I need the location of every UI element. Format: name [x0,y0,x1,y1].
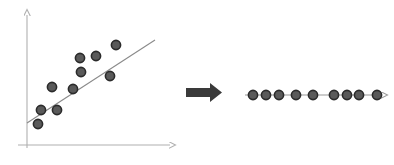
transform-arrow [186,83,222,102]
data-point [75,53,84,62]
data-point [33,119,42,128]
projected-point [308,90,317,99]
right-panel [245,90,382,99]
projected-point [248,90,257,99]
data-point [68,84,77,93]
projected-point [274,90,283,99]
scatter-points-group [33,40,120,128]
figure-canvas [0,0,394,165]
data-point [105,71,114,80]
left-panel [18,15,170,148]
data-point [76,67,85,76]
projected-point [372,90,381,99]
data-point [52,105,61,114]
projected-point [354,90,363,99]
data-point [91,51,100,60]
transform-arrow-shape [186,83,222,102]
projected-point [291,90,300,99]
projected-point [261,90,270,99]
data-point [111,40,120,49]
data-point [36,105,45,114]
data-point [47,82,56,91]
projected-point [329,90,338,99]
projected-point [342,90,351,99]
figure-svg [0,0,394,165]
projected-points-group [248,90,381,99]
